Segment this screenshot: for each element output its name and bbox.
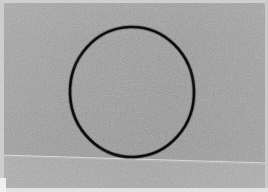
photograph-canvas [0, 0, 268, 192]
bottom-left-corner-strip [0, 178, 6, 192]
bottom-edge-strip [0, 188, 268, 192]
surface-shading-gradient [0, 0, 268, 192]
top-edge-strip [0, 0, 268, 3]
left-edge-strip [0, 0, 4, 192]
right-edge-strip [265, 0, 268, 192]
